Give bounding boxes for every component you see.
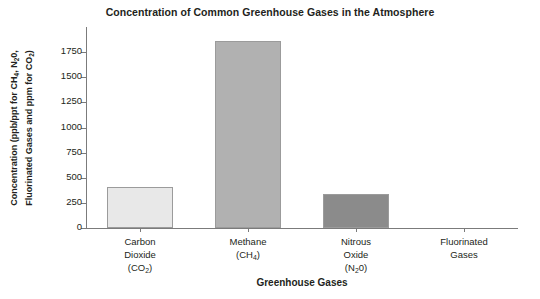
x-tick-label-line: Carbon [86, 235, 194, 248]
bar [107, 187, 174, 228]
x-axis-title: Greenhouse Gases [86, 277, 518, 288]
x-tick-label-line: (N20) [302, 261, 410, 277]
y-tick-label: 750 [66, 146, 82, 157]
x-tick-label-line: (CH4) [194, 248, 302, 264]
y-tick-label: 1000 [61, 121, 82, 132]
y-tick-label: 1250 [61, 95, 82, 106]
x-tick-label-line: Methane [194, 235, 302, 248]
y-axis-title-line-1: Concentration (ppb/ppt for CH4, N20, [9, 50, 19, 206]
x-tick-label-line: Nitrous [302, 235, 410, 248]
y-axis-title-text: Concentration (ppb/ppt for CH4, N20, Flu… [8, 50, 38, 206]
y-axis-title-line-2: Fluorinated Gases and ppm for CO2) [24, 50, 34, 206]
chart-figure: Concentration of Common Greenhouse Gases… [0, 0, 540, 299]
x-tick-label: NitrousOxide(N20) [302, 235, 410, 277]
bar [215, 41, 282, 228]
plot-area: 02505007501000125015001750 CarbonDioxide… [86, 27, 518, 228]
x-tick-label-line: Fluorinated [410, 235, 518, 248]
chart-title: Concentration of Common Greenhouse Gases… [0, 6, 540, 18]
x-tick-label-line: Oxide [302, 248, 410, 261]
x-tick-label-line: (CO2) [86, 261, 194, 277]
x-tick-mark [356, 228, 357, 232]
y-tick-label: 500 [66, 171, 82, 182]
x-tick-mark [248, 228, 249, 232]
x-tick-mark [140, 228, 141, 232]
y-tick-label: 1750 [61, 45, 82, 56]
x-tick-label-line: Gases [410, 248, 518, 261]
y-tick-label: 0 [77, 221, 82, 232]
x-tick-label: FluorinatedGases [410, 235, 518, 261]
x-axis-line [86, 228, 518, 229]
x-tick-label: Methane(CH4) [194, 235, 302, 264]
bar [323, 194, 390, 228]
y-tick-label: 1500 [61, 70, 82, 81]
x-tick-label: CarbonDioxide(CO2) [86, 235, 194, 277]
y-tick-label: 250 [66, 196, 82, 207]
y-axis-line [86, 27, 87, 228]
x-tick-mark [464, 228, 465, 232]
y-axis-title: Concentration (ppb/ppt for CH4, N20, Flu… [8, 25, 38, 230]
x-tick-label-line: Dioxide [86, 248, 194, 261]
